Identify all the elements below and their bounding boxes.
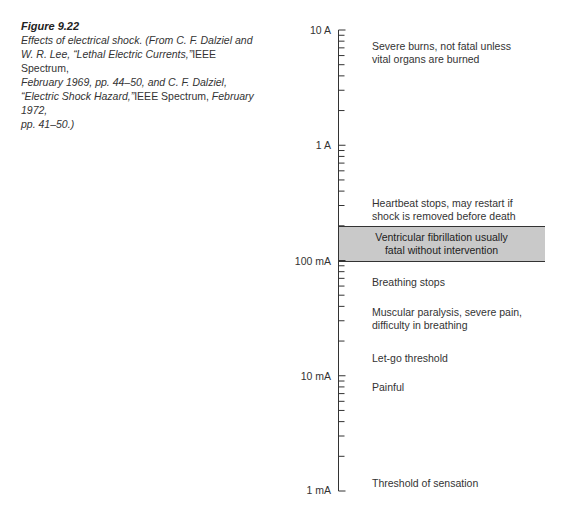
label-line: Let-go threshold: [372, 352, 448, 365]
tick-label-1ma: 1 mA: [271, 484, 331, 496]
label-severe-burns: Severe burns, not fatal unless vital org…: [372, 40, 511, 66]
tick-label-10a: 10 A: [271, 24, 331, 36]
label-heartbeat-stops: Heartbeat stops, may restart if shock is…: [372, 197, 516, 223]
label-line: Ventricular fibrillation usually: [338, 231, 545, 244]
label-line: Breathing stops: [372, 276, 445, 289]
label-line: shock is removed before death: [372, 210, 516, 223]
label-painful: Painful: [372, 381, 404, 394]
label-threshold-of-sensation: Threshold of sensation: [372, 477, 478, 490]
label-line: Painful: [372, 381, 404, 394]
tick-label-100ma: 100 mA: [271, 255, 331, 267]
label-line: difficulty in breathing: [372, 319, 522, 332]
label-line: Threshold of sensation: [372, 477, 478, 490]
label-muscular-paralysis: Muscular paralysis, severe pain, difficu…: [372, 306, 522, 332]
label-ventricular-fibrillation: Ventricular fibrillation usually fatal w…: [338, 231, 545, 257]
label-let-go-threshold: Let-go threshold: [372, 352, 448, 365]
label-line: Heartbeat stops, may restart if: [372, 197, 516, 210]
label-line: Muscular paralysis, severe pain,: [372, 306, 522, 319]
tick-label-10ma: 10 mA: [271, 370, 331, 382]
label-line: vital organs are burned: [372, 53, 511, 66]
label-breathing-stops: Breathing stops: [372, 276, 445, 289]
label-line: fatal without intervention: [338, 244, 545, 257]
tick-label-1a: 1 A: [271, 139, 331, 151]
label-line: Severe burns, not fatal unless: [372, 40, 511, 53]
